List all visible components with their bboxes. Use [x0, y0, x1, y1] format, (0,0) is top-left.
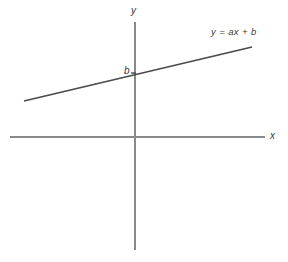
y-intercept-label: b: [124, 66, 130, 76]
linear-function-figure: y x b y = ax + b: [0, 0, 288, 262]
y-axis-label: y: [131, 6, 136, 16]
equation-label: y = ax + b: [211, 27, 257, 37]
x-axis-label: x: [270, 131, 275, 141]
coordinate-plot: [0, 0, 288, 262]
function-line: [24, 47, 252, 101]
